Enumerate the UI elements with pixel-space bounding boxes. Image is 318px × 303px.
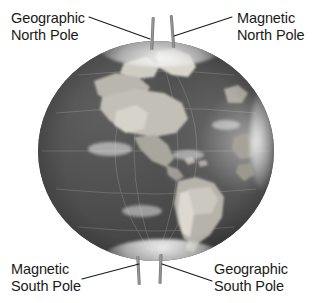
limb-shading: [38, 41, 274, 261]
label-magnetic-south-pole: Magnetic South Pole: [11, 261, 81, 295]
label-magnetic-south-line1: Magnetic: [11, 261, 69, 277]
label-magnetic-south-line2: South Pole: [11, 278, 81, 295]
leader-magnetic-north: [174, 17, 232, 36]
earth-globe: [38, 41, 274, 261]
label-geographic-north-pole: Geographic North Pole: [11, 10, 85, 44]
label-geographic-south-line2: South Pole: [214, 278, 288, 295]
leader-magnetic-south: [82, 264, 139, 279]
label-geographic-south-pole: Geographic South Pole: [214, 261, 288, 295]
geographic-south-axis-rod: [158, 254, 162, 284]
label-magnetic-north-pole: Magnetic North Pole: [237, 10, 305, 44]
label-magnetic-north-line2: North Pole: [237, 27, 305, 44]
label-geographic-north-line2: North Pole: [11, 27, 85, 44]
label-geographic-north-line1: Geographic: [11, 10, 85, 26]
globe-container: [38, 41, 274, 261]
label-geographic-south-line1: Geographic: [214, 261, 288, 277]
leader-geographic-south: [162, 264, 212, 281]
leader-geographic-north: [89, 17, 150, 39]
pole-diagram-figure: Geographic North Pole Magnetic North Pol…: [0, 0, 318, 303]
label-magnetic-north-line1: Magnetic: [237, 10, 295, 26]
